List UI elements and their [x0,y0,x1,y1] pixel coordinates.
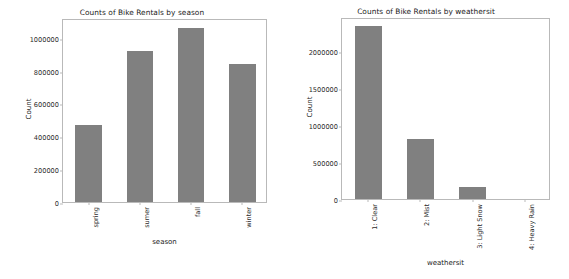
x-axis-label: season [62,238,267,246]
y-tick-label: 200000 [34,167,63,175]
x-tick-mark [242,202,243,205]
y-tick-label: 500000 [313,160,342,168]
y-tick-label: 600000 [34,101,63,109]
x-tick-mark [88,202,89,205]
y-tick-label: 0 [55,200,63,208]
plot-area: 02000004000006000008000001000000 springs… [62,19,267,203]
x-tick-label: spring [92,207,100,228]
matplotlib-figure: Counts of Bike Rentals by season 0200000… [0,0,569,279]
chart-title: Counts of Bike Rentals by season [0,8,284,17]
plot-area: 0500000100000015000002000000 1: Clear2: … [341,18,550,200]
y-tick-label: 1000000 [30,36,63,44]
bar [407,139,434,199]
bar [178,28,205,202]
y-axis-label: Count [306,77,314,137]
x-tick-label: fall [194,207,202,217]
x-tick-label: winter [245,207,253,228]
x-tick-mark [191,202,192,205]
y-axis-label: Count [25,79,33,139]
y-tick-label: 2000000 [309,49,342,57]
subplot-season: Counts of Bike Rentals by season 0200000… [0,0,284,279]
x-tick-mark [472,199,473,202]
bars-layer [63,20,266,202]
x-tick-label: 3: Light Snow [476,204,484,249]
x-tick-label: 1: Clear [371,204,379,230]
x-tick-mark [524,199,525,202]
bar [459,187,486,199]
bar [229,64,256,202]
x-tick-mark [368,199,369,202]
x-tick-label: 4: Heavy Rain [528,204,536,250]
x-tick-label: 2: Mist [423,204,431,226]
x-tick-mark [139,202,140,205]
y-tick-label: 400000 [34,134,63,142]
x-tick-mark [420,199,421,202]
bar [355,26,382,199]
bar [127,51,154,202]
x-axis-label: weathersit [341,259,550,267]
bars-layer [342,19,549,199]
chart-title: Counts of Bike Rentals by weathersit [284,7,568,16]
y-tick-label: 800000 [34,69,63,77]
subplot-weathersit: Counts of Bike Rentals by weathersit 050… [284,0,568,279]
bar [75,125,102,202]
y-tick-label: 0 [334,197,342,205]
x-tick-label: sumer [143,207,151,228]
